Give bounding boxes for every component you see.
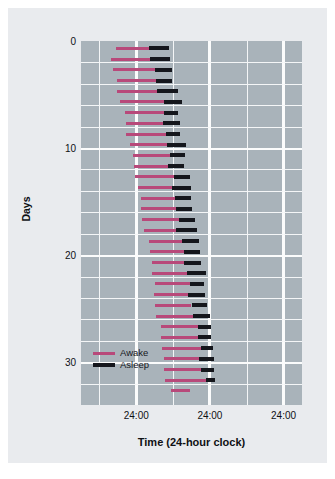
- gridline-horizontal: [81, 84, 302, 85]
- asleep-bar: [198, 325, 212, 329]
- awake-bar: [117, 79, 156, 82]
- awake-bar: [133, 154, 170, 157]
- awake-bar: [152, 261, 183, 264]
- awake-bar: [142, 218, 178, 221]
- asleep-bar: [199, 357, 213, 361]
- asleep-bar: [172, 186, 191, 190]
- asleep-bar: [174, 175, 190, 179]
- awake-bar: [141, 207, 176, 210]
- asleep-bar: [193, 314, 210, 318]
- awake-bar: [150, 250, 184, 253]
- gridline-horizontal: [81, 105, 302, 106]
- y-tick-label: 30: [50, 357, 76, 368]
- asleep-bar: [179, 218, 196, 222]
- awake-bar: [135, 175, 174, 178]
- x-tick-label: 24:00: [124, 410, 149, 421]
- asleep-bar: [164, 100, 181, 104]
- asleep-bar: [201, 368, 215, 372]
- gridline-horizontal: [81, 127, 302, 128]
- awake-bar: [149, 240, 182, 243]
- awake-bar: [126, 133, 167, 136]
- awake-bar: [161, 325, 198, 328]
- asleep-bar: [192, 303, 207, 307]
- awake-bar: [113, 68, 155, 71]
- asleep-bar: [206, 378, 215, 382]
- chart-legend: Awake Asleep: [93, 347, 149, 371]
- gridline-horizontal: [81, 212, 302, 213]
- chart-figure: 0102030 Days Awake Asleep 24:0024:0024:0…: [0, 0, 335, 479]
- asleep-bar: [170, 153, 185, 157]
- asleep-bar: [163, 121, 180, 125]
- x-tick-label: 24:00: [271, 410, 296, 421]
- legend-label-asleep: Asleep: [120, 359, 149, 371]
- awake-bar: [130, 143, 167, 146]
- asleep-bar: [190, 282, 205, 286]
- asleep-bar: [176, 207, 193, 211]
- awake-bar: [138, 186, 172, 189]
- asleep-bar: [155, 68, 172, 72]
- gridline-horizontal: [81, 277, 302, 278]
- awake-bar: [141, 197, 175, 200]
- asleep-bar: [175, 196, 192, 200]
- gridline-vertical: [247, 41, 248, 405]
- gridline-horizontal-major: [81, 148, 302, 150]
- awake-bar: [116, 47, 148, 50]
- awake-bar: [111, 58, 150, 61]
- asleep-bar: [164, 111, 178, 115]
- asleep-bar: [182, 239, 199, 243]
- asleep-bar: [149, 46, 169, 50]
- asleep-bar: [156, 79, 172, 83]
- asleep-bar: [187, 271, 205, 275]
- asleep-bar: [176, 228, 197, 232]
- asleep-bar: [167, 143, 186, 147]
- gridline-horizontal: [81, 234, 302, 235]
- awake-bar: [125, 111, 164, 114]
- asleep-bar: [184, 261, 202, 265]
- asleep-bar: [188, 293, 205, 297]
- gridline-horizontal: [81, 384, 302, 385]
- asleep-bar: [150, 57, 170, 61]
- gridline-horizontal-major: [81, 255, 302, 257]
- y-tick-label: 0: [50, 36, 76, 47]
- awake-bar: [144, 229, 176, 232]
- asleep-bar: [157, 89, 178, 93]
- y-tick-label: 10: [50, 143, 76, 154]
- legend-item-asleep: Asleep: [93, 359, 149, 371]
- awake-bar: [161, 336, 197, 339]
- awake-bar: [156, 315, 193, 318]
- asleep-bar: [184, 250, 200, 254]
- y-tick-label: 20: [50, 250, 76, 261]
- awake-bar: [165, 379, 206, 382]
- gridline-horizontal: [81, 191, 302, 192]
- gridline-vertical-major: [208, 41, 211, 405]
- legend-swatch-asleep-icon: [93, 363, 115, 367]
- gridline-horizontal: [81, 298, 302, 299]
- asleep-bar: [168, 164, 185, 168]
- gridline-horizontal: [81, 169, 302, 170]
- legend-swatch-awake-icon: [93, 352, 115, 355]
- figure-panel: 0102030 Days Awake Asleep 24:0024:0024:0…: [8, 8, 327, 463]
- gridline-horizontal: [81, 62, 302, 63]
- awake-bar: [155, 282, 190, 285]
- awake-bar: [155, 304, 192, 307]
- x-tick-label: 24:00: [197, 410, 222, 421]
- awake-bar: [117, 90, 158, 93]
- legend-label-awake: Awake: [120, 347, 148, 359]
- asleep-bar: [198, 335, 212, 339]
- awake-bar: [134, 165, 168, 168]
- gridline-horizontal: [81, 319, 302, 320]
- plot-area: Awake Asleep: [81, 41, 302, 405]
- awake-bar: [164, 368, 200, 371]
- gridline-vertical-major: [282, 41, 285, 405]
- awake-bar: [164, 357, 200, 360]
- gridline-vertical: [173, 41, 174, 405]
- awake-bar: [120, 100, 165, 103]
- y-axis-ticks: 0102030: [48, 41, 76, 405]
- awake-bar: [154, 293, 188, 296]
- x-axis-ticks: 24:0024:0024:00: [81, 410, 302, 424]
- awake-bar: [171, 389, 191, 392]
- y-axis-title: Days: [20, 179, 32, 239]
- awake-bar: [126, 122, 163, 125]
- asleep-bar: [201, 346, 213, 350]
- x-axis-title: Time (24-hour clock): [81, 436, 302, 448]
